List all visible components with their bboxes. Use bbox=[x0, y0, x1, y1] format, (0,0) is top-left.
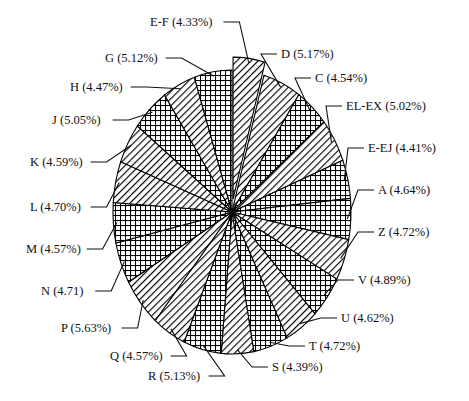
pie-label-j: J (5.05%) bbox=[52, 113, 101, 127]
pie-label-v: V (4.89%) bbox=[358, 273, 411, 287]
pie-label-g: G (5.12%) bbox=[105, 51, 158, 65]
pie-label-m: M (4.57%) bbox=[26, 242, 81, 256]
pie-label-s: S (4.39%) bbox=[272, 360, 323, 374]
pie-chart-figure: E-F (4.33%)D (5.17%)C (4.54%)EL-EX (5.02… bbox=[0, 0, 469, 401]
pie-label-r: R (5.13%) bbox=[148, 369, 200, 383]
pie-label-e-ej: E-EJ (4.41%) bbox=[368, 141, 436, 155]
pie-slices-group bbox=[113, 57, 351, 354]
pie-label-a: A (4.64%) bbox=[378, 183, 430, 197]
leader-line-m bbox=[87, 223, 117, 250]
pie-label-e-f: E-F (4.33%) bbox=[150, 15, 213, 29]
pie-label-n: N (4.71) bbox=[41, 284, 83, 298]
pie-label-p: P (5.63%) bbox=[61, 321, 111, 335]
pie-label-h: H (4.47%) bbox=[70, 80, 123, 94]
pie-chart-canvas: E-F (4.33%)D (5.17%)C (4.54%)EL-EX (5.02… bbox=[0, 0, 469, 401]
pie-label-l: L (4.70%) bbox=[30, 200, 81, 214]
pie-label-q: Q (4.57%) bbox=[110, 349, 163, 363]
pie-label-c: C (4.54%) bbox=[315, 71, 367, 85]
pie-label-k: K (4.59%) bbox=[30, 155, 83, 169]
leader-line-h bbox=[131, 87, 181, 89]
pie-label-el-ex: EL-EX (5.02%) bbox=[346, 99, 426, 113]
leader-line-e-f bbox=[223, 22, 248, 63]
pie-label-u: U (4.62%) bbox=[341, 311, 394, 325]
pie-label-t: T (4.72%) bbox=[309, 339, 360, 353]
pie-label-z: Z (4.72%) bbox=[378, 225, 429, 239]
pie-label-d: D (5.17%) bbox=[281, 47, 334, 61]
leader-line-p bbox=[122, 300, 144, 328]
leader-line-n bbox=[95, 262, 124, 291]
